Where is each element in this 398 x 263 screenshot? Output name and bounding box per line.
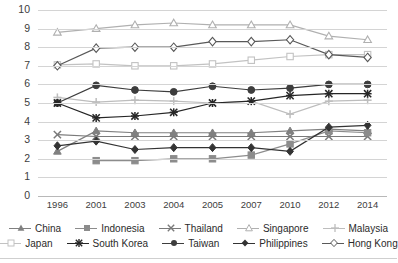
legend-row-1: ChinaIndonesiaThailandSingaporeMalaysia	[0, 221, 397, 235]
legend-label: Japan	[25, 238, 52, 249]
legend-item-japan[interactable]: Japan	[0, 238, 53, 249]
data-point	[286, 36, 293, 44]
data-point	[132, 146, 139, 154]
legend-label: Malaysia	[349, 223, 388, 234]
data-point	[287, 85, 294, 92]
data-point	[248, 87, 255, 94]
data-point	[286, 92, 294, 100]
series-philippines	[54, 121, 371, 155]
gridline	[38, 66, 387, 67]
data-point	[209, 37, 216, 45]
x-tick-label: 2012	[309, 199, 348, 210]
gridline	[38, 103, 387, 104]
legend-item-thailand[interactable]: Thailand	[159, 223, 223, 234]
data-point	[287, 141, 293, 147]
y-tick-label: 1	[4, 171, 30, 182]
legend-label: Thailand	[185, 223, 223, 234]
legend-swatch-icon	[323, 223, 345, 233]
gridline	[38, 122, 387, 123]
legend-item-hong-kong[interactable]: Hong Kong	[322, 238, 398, 249]
data-point	[248, 152, 254, 158]
y-tick-label: 3	[4, 134, 30, 145]
legend-swatch-icon	[9, 223, 31, 233]
gridline	[38, 177, 387, 178]
legend-swatch-icon	[237, 223, 259, 233]
data-point	[325, 90, 333, 98]
gridline	[38, 47, 387, 48]
data-point	[287, 53, 293, 59]
y-tick-label: 6	[4, 78, 30, 89]
series-layer	[0, 0, 397, 216]
legend-swatch-icon	[75, 223, 97, 233]
data-point	[54, 142, 61, 150]
legend-item-malaysia[interactable]: Malaysia	[323, 223, 388, 234]
legend-swatch-icon	[322, 238, 344, 248]
legend-item-south-korea[interactable]: South Korea	[67, 238, 149, 249]
bottom-divider	[0, 258, 397, 259]
x-tick-label: 2005	[193, 199, 232, 210]
x-tick-label: 2004	[154, 199, 193, 210]
data-point	[248, 57, 254, 63]
x-tick-label: 2001	[77, 199, 116, 210]
data-point	[170, 108, 178, 116]
legend-item-philippines[interactable]: Philippines	[233, 238, 307, 249]
legend-item-china[interactable]: China	[9, 223, 61, 234]
x-axis-labels: 199620012003200420052007201020122014	[38, 199, 387, 213]
legend-label: Taiwan	[188, 238, 219, 249]
legend-item-taiwan[interactable]: Taiwan	[162, 238, 219, 249]
legend-swatch-icon	[159, 223, 181, 233]
gridline	[38, 84, 387, 85]
y-tick-label: 5	[4, 97, 30, 108]
legend-label: China	[35, 223, 61, 234]
legend-label: Hong Kong	[348, 238, 398, 249]
y-tick-label: 0	[4, 190, 30, 201]
x-tick-label: 2014	[348, 199, 387, 210]
legend-swatch-icon	[67, 238, 89, 248]
x-tick-label: 2003	[116, 199, 155, 210]
data-point	[170, 88, 177, 95]
data-point	[248, 37, 255, 45]
gridline	[38, 196, 387, 197]
legend-swatch-icon	[162, 238, 184, 248]
x-tick-label: 2010	[271, 199, 310, 210]
y-tick-label: 10	[4, 4, 30, 15]
data-point	[209, 144, 216, 152]
legend-label: Singapore	[263, 223, 309, 234]
y-tick-label: 7	[4, 60, 30, 71]
y-tick-label: 9	[4, 23, 30, 34]
legend-swatch-icon	[0, 238, 21, 248]
data-point	[170, 19, 178, 26]
data-point	[170, 144, 177, 152]
legend-row-2: JapanSouth KoreaTaiwanPhilippinesHong Ko…	[0, 236, 397, 250]
plot-frame: 012345678910	[0, 0, 397, 216]
data-point	[364, 130, 370, 136]
y-tick-label: 2	[4, 153, 30, 164]
data-point	[364, 90, 372, 98]
legend-swatch-icon	[233, 238, 255, 248]
chart-legend: ChinaIndonesiaThailandSingaporeMalaysia …	[0, 221, 397, 253]
series-south-korea	[53, 90, 371, 122]
x-tick-label: 2007	[232, 199, 271, 210]
legend-item-singapore[interactable]: Singapore	[237, 223, 309, 234]
data-point	[287, 147, 294, 155]
legend-label: Philippines	[259, 238, 307, 249]
gridline	[38, 140, 387, 141]
gridline	[38, 159, 387, 160]
gridline	[38, 10, 387, 11]
legend-item-indonesia[interactable]: Indonesia	[75, 223, 144, 234]
y-tick-label: 4	[4, 116, 30, 127]
data-point	[248, 144, 255, 152]
x-tick-label: 1996	[38, 199, 77, 210]
y-tick-label: 8	[4, 41, 30, 52]
data-point	[92, 127, 100, 134]
legend-label: Indonesia	[101, 223, 144, 234]
data-point	[131, 112, 139, 120]
legend-label: South Korea	[93, 238, 149, 249]
data-point	[132, 87, 139, 94]
data-point	[286, 110, 294, 118]
gridline	[38, 29, 387, 30]
